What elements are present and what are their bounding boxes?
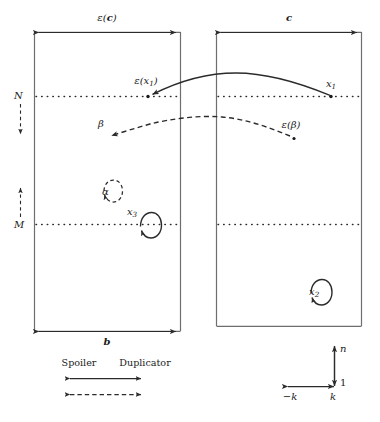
duplicator-move-arrow [112,116,291,136]
legend-label-spoiler: Spoiler [62,358,97,368]
epsilon-x1-dot [146,95,149,98]
axis-key-label-minus-k: −k [283,392,297,402]
x3-self-loop [141,213,162,239]
x3-sub: 3 [133,210,138,219]
axis-label-N: N [14,91,23,101]
point-label-beta: β [98,119,104,129]
point-label-alpha: α [102,187,109,197]
axis-key-label-n: n [340,344,346,354]
figure-root: ε(c) c b N M ε(x1) x1 β ε(β) α x3 x2 Spo… [0,0,380,422]
x2-sub: 2 [315,290,320,299]
x1-sub: 1 [332,82,337,91]
point-label-epsilon-x1: ε(x1) [134,76,157,87]
axis-key-label-1: 1 [340,378,346,388]
point-label-x2: x2 [309,287,319,298]
diagram-canvas [0,0,380,422]
epsilon-x1-base: ε(x [134,75,149,86]
spoiler-move-arrow [153,73,331,95]
axis-label-M: M [14,220,24,230]
point-label-x1: x1 [326,79,336,90]
epsilon-x1-close: ) [154,75,158,86]
dimension-label-c: c [286,13,292,23]
x1-dot [329,95,332,98]
dimension-label-b: b [104,337,111,347]
point-label-epsilon-beta: ε(β) [282,120,301,130]
right-block-rect [217,32,362,326]
axis-key-label-k: k [330,392,336,402]
epsilon-beta-dot [292,137,295,140]
dimension-label-epsilon-c: ε(c) [97,13,116,23]
point-label-x3: x3 [127,207,137,218]
legend-label-duplicator: Duplicator [119,358,170,368]
